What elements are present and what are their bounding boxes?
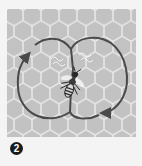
honeycomb-diagram xyxy=(7,9,136,137)
waggle-dance-figure xyxy=(7,9,136,137)
hexagon-cells xyxy=(7,9,136,137)
step-number-badge: 2 xyxy=(10,142,23,155)
